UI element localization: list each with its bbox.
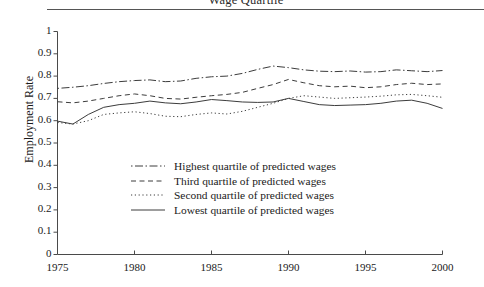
legend-item-lowest: Lowest quartile of predicted wages bbox=[131, 203, 336, 218]
y-tick-label: 0.9 bbox=[22, 46, 52, 58]
series-line bbox=[58, 79, 443, 102]
series-line bbox=[58, 98, 443, 124]
y-tick-label: 0.2 bbox=[22, 202, 52, 214]
legend-label: Second quartile of predicted wages bbox=[174, 188, 334, 203]
y-tick-label: 0.7 bbox=[22, 90, 52, 102]
y-tick-label: 0 bbox=[22, 247, 52, 259]
legend-label: Highest quartile of predicted wages bbox=[174, 159, 336, 174]
y-tick-label: 1 bbox=[22, 24, 52, 36]
line-chart bbox=[0, 0, 484, 287]
y-tick-label: 0.3 bbox=[22, 180, 52, 192]
legend-label: Lowest quartile of predicted wages bbox=[174, 203, 334, 218]
x-tick-label: 1990 bbox=[267, 261, 311, 273]
x-tick-label: 1980 bbox=[113, 261, 157, 273]
x-tick-label: 1975 bbox=[36, 261, 80, 273]
figure-container: Wage Quartile Employment Rate 00.10.20.3… bbox=[0, 0, 484, 287]
x-tick-label: 1985 bbox=[190, 261, 234, 273]
x-tick-label: 1995 bbox=[344, 261, 388, 273]
y-tick-label: 0.5 bbox=[22, 135, 52, 147]
x-tick-label: 2000 bbox=[421, 261, 465, 273]
legend-label: Third quartile of predicted wages bbox=[174, 174, 326, 189]
y-tick-label: 0.4 bbox=[22, 157, 52, 169]
chart-legend: Highest quartile of predicted wages Thir… bbox=[131, 159, 336, 217]
legend-item-third: Third quartile of predicted wages bbox=[131, 174, 336, 189]
y-tick-label: 0.6 bbox=[22, 113, 52, 125]
y-tick-label: 0.1 bbox=[22, 224, 52, 236]
legend-swatch-dashed-icon bbox=[131, 176, 165, 186]
chart-plot-area: Employment Rate 00.10.20.30.40.50.60.70.… bbox=[0, 0, 484, 287]
legend-swatch-dash-dot-icon bbox=[131, 161, 165, 171]
legend-swatch-solid-icon bbox=[131, 205, 165, 215]
legend-swatch-dotted-icon bbox=[131, 190, 165, 200]
legend-item-highest: Highest quartile of predicted wages bbox=[131, 159, 336, 174]
legend-item-second: Second quartile of predicted wages bbox=[131, 188, 336, 203]
y-tick-label: 0.8 bbox=[22, 68, 52, 80]
series-line bbox=[58, 66, 443, 88]
series-line bbox=[58, 94, 443, 124]
